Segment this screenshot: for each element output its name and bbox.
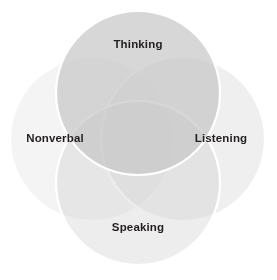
venn-circles-canvas [0,0,277,280]
venn-circle-thinking[interactable] [56,11,220,175]
venn-diagram: Thinking Listening Speaking Nonverbal [0,0,277,280]
